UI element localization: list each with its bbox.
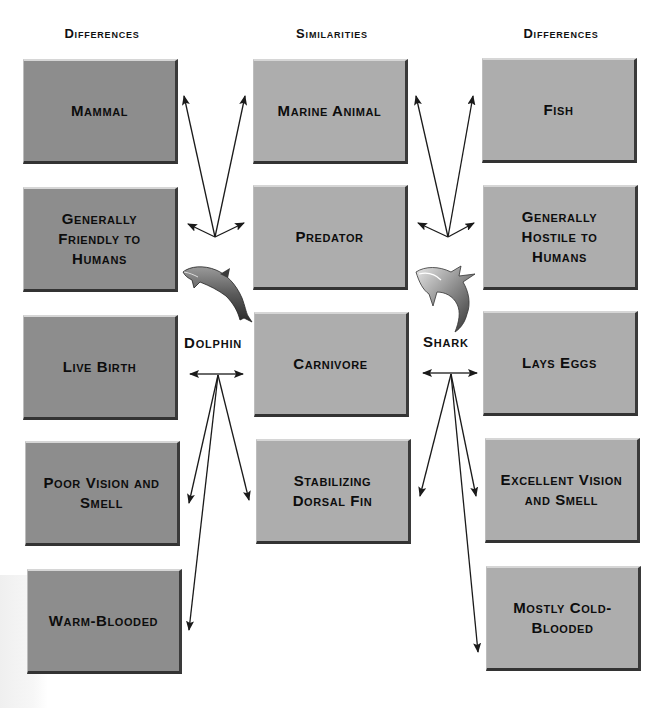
arrow-shark-marine [416,96,448,237]
box-text: Lays Eggs [522,353,597,373]
dolphin-diff-box: Mammal [23,59,178,164]
shark-icon [411,262,483,334]
dolphin-diff-box: Live Birth [23,315,178,420]
box-text: Generally Hostile to Humans [500,207,620,267]
shark-diff-box: Mostly Cold-Blooded [486,566,641,671]
arrow-shark-vision [451,374,476,496]
arrow-dolphin-warm [189,375,218,630]
heading-dolphin-differences: Differences [22,26,182,41]
box-text: Live Birth [63,357,137,377]
arrow-dolphin-predator [215,223,244,237]
arrow-dolphin-dorsal [218,375,249,500]
arrow-shark-cold [451,374,478,652]
box-text: Generally Friendly to Humans [40,209,160,269]
box-text: Poor Vision and Smell [42,473,162,513]
heading-similarities: Similarities [252,26,412,41]
arrow-shark-predator [418,223,448,237]
arrow-dolphin-marine [215,96,245,237]
box-text: Fish [544,100,574,120]
dolphin-icon [180,262,256,324]
shark-diff-box: Lays Eggs [483,311,638,416]
box-text: Warm-Blooded [49,611,158,631]
arrow-shark-fish [448,96,473,237]
similarity-box: Carnivore [254,312,409,417]
box-text: Mostly Cold-Blooded [498,598,628,638]
dolphin-diff-box: Generally Friendly to Humans [23,187,178,292]
arrow-shark-hostile [448,223,474,237]
similarity-box: Predator [253,185,408,290]
similarity-box: Stabilizing Dorsal Fin [256,439,411,544]
box-text: Predator [295,227,363,247]
box-text: Marine Animal [278,101,382,121]
dolphin-label: Dolphin [184,334,242,351]
shark-label: Shark [423,333,469,350]
shark-diff-box: Fish [482,58,637,163]
arrow-shark-dorsal [420,374,451,496]
box-text: Stabilizing Dorsal Fin [273,471,393,511]
arrow-dolphin-friendly [188,224,215,237]
box-text: Carnivore [293,354,367,374]
shark-diff-box: Excellent Vision and Smell [485,438,640,543]
shark-diff-box: Generally Hostile to Humans [483,185,638,290]
box-text: Mammal [71,101,128,121]
dolphin-diff-box: Warm-Blooded [27,569,182,674]
similarity-box: Marine Animal [253,59,408,164]
dolphin-diff-box: Poor Vision and Smell [25,441,180,546]
heading-shark-differences: Differences [481,26,641,41]
box-text: Excellent Vision and Smell [494,470,629,510]
arrow-dolphin-mammal [184,96,215,237]
arrow-dolphin-vision [189,375,218,503]
